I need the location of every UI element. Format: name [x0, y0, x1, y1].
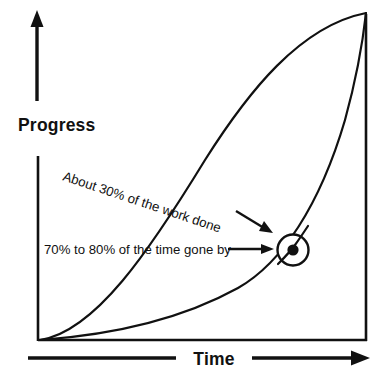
actual-annotation-label: 70% to 80% of the time gone by — [44, 242, 231, 257]
progress-axis — [31, 10, 44, 101]
progress-vs-time-diagram: Progress Time About 30% of the work done… — [0, 0, 383, 381]
diagram-canvas: Progress Time About 30% of the work done… — [0, 0, 383, 381]
status-marker — [278, 226, 309, 266]
time-axis-arrowhead — [351, 351, 370, 366]
optimistic-pointer-shaft — [236, 211, 264, 228]
actual-pointer-arrowhead — [261, 244, 274, 254]
time-axis-label: Time — [193, 349, 234, 369]
progress-axis-label: Progress — [18, 115, 96, 135]
optimistic-pointer-arrowhead — [259, 221, 273, 233]
optimistic-pointer-arrow — [236, 211, 273, 233]
actual-pointer-arrow — [228, 244, 274, 254]
progress-axis-arrowhead — [31, 10, 44, 27]
optimistic-annotation-label: About 30% of the work done — [61, 169, 223, 236]
status-marker-dot — [287, 244, 298, 255]
